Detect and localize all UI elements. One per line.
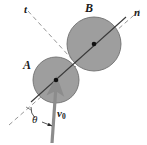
velocity-v0-label: v0 xyxy=(57,108,66,119)
velocity-v0-subscript: 0 xyxy=(62,112,66,121)
collision-diagram-figure: t n B A θ v0 xyxy=(0,0,147,145)
disk-a-label: A xyxy=(23,59,31,71)
disk-a-center-dot xyxy=(54,78,59,83)
disk-b-center-dot xyxy=(92,42,97,47)
diagram-canvas xyxy=(0,0,147,145)
axis-t-label: t xyxy=(24,4,27,15)
axis-n-label: n xyxy=(134,7,140,18)
theta-leader-arrow xyxy=(42,122,52,126)
theta-angle-label: θ xyxy=(32,114,37,125)
disk-b-label: B xyxy=(85,2,93,14)
